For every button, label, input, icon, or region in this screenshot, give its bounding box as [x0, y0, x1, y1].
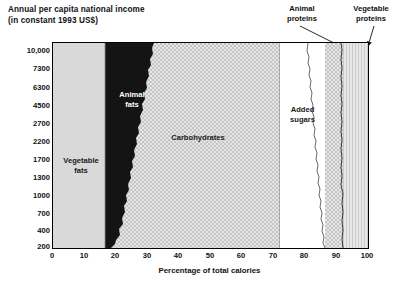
y-tick-2200: 2200: [4, 138, 50, 146]
x-tick-50: 50: [198, 251, 222, 260]
x-axis-title: Percentage of total calories: [52, 266, 367, 275]
y-tick-2700: 2700: [4, 120, 50, 128]
x-tick-30: 30: [135, 251, 159, 260]
y-tick-400: 400: [4, 227, 50, 235]
callout-vegetable-proteins-line2: proteins: [338, 14, 404, 24]
callout-animal-proteins: Animal proteins: [272, 4, 332, 23]
plot-area: Vegetable fats Animal fats Carbohydrates…: [52, 42, 369, 249]
callout-animal-proteins-line1: Animal: [272, 4, 332, 14]
x-tick-10: 10: [72, 251, 96, 260]
y-tick-700: 700: [4, 210, 50, 218]
y-tick-1300: 1300: [4, 174, 50, 182]
y-tick-7300: 7300: [4, 65, 50, 73]
x-tick-40: 40: [166, 251, 190, 260]
y-tick-6300: 6300: [4, 84, 50, 92]
band-boundaries: [53, 43, 368, 248]
y-tick-1000: 1000: [4, 192, 50, 200]
x-tick-100: 100: [355, 251, 379, 260]
callout-vegetable-proteins: Vegetable proteins: [338, 4, 404, 23]
x-tick-90: 90: [324, 251, 348, 260]
x-tick-20: 20: [103, 251, 127, 260]
y-axis: 10,000 7300 6300 4500 2700 2200 1700 130…: [0, 0, 50, 290]
y-tick-200: 200: [4, 243, 50, 251]
x-tick-70: 70: [261, 251, 285, 260]
callout-animal-proteins-line2: proteins: [272, 14, 332, 24]
x-tick-0: 0: [40, 251, 64, 260]
callout-vegetable-proteins-line1: Vegetable: [338, 4, 404, 14]
y-tick-1700: 1700: [4, 156, 50, 164]
x-tick-80: 80: [292, 251, 316, 260]
y-tick-4500: 4500: [4, 102, 50, 110]
y-tick-10000: 10,000: [4, 47, 50, 55]
x-tick-60: 60: [229, 251, 253, 260]
